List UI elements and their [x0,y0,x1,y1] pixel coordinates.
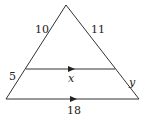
label-lower-right: y [128,76,136,89]
triangle-diagram: 10 11 5 y x 18 [0,0,147,120]
label-middle-segment: x [68,72,75,85]
label-base: 18 [67,104,81,117]
label-upper-right: 11 [91,23,105,36]
label-upper-left: 10 [35,23,49,36]
label-lower-left: 5 [9,70,16,83]
base-arrow-icon [70,96,77,102]
